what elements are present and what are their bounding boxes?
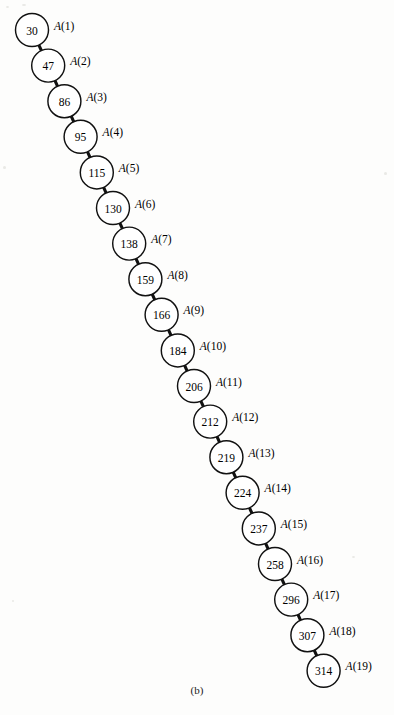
list-node[interactable]: 166A(9) [145, 298, 204, 331]
node-value: 258 [266, 559, 284, 571]
node-value: 95 [75, 131, 87, 143]
node-label: A(19) [345, 660, 372, 673]
node-value: 166 [153, 309, 171, 321]
node-value: 130 [104, 203, 122, 215]
node-value: 314 [315, 665, 333, 677]
node-value: 296 [283, 594, 301, 606]
figure-container: 30A(1)47A(2)86A(3)95A(4)115A(5)130A(6)13… [0, 0, 394, 715]
scan-speck [12, 600, 14, 602]
node-label: A(7) [150, 233, 172, 246]
node-value: 212 [202, 416, 220, 428]
node-value: 86 [59, 96, 71, 108]
node-value: 47 [42, 60, 54, 72]
node-label: A(11) [215, 376, 242, 389]
node-label: A(4) [102, 126, 124, 139]
node-label: A(18) [328, 625, 355, 638]
figure-caption: (b) [0, 684, 394, 696]
node-value: 115 [88, 167, 105, 179]
node-label: A(16) [296, 554, 323, 567]
list-node[interactable]: 224A(14) [226, 476, 291, 509]
list-node[interactable]: 130A(6) [97, 192, 156, 225]
node-value: 224 [234, 487, 252, 499]
scan-speck [384, 172, 387, 175]
node-label: A(10) [199, 340, 226, 353]
scan-speck [6, 6, 9, 8]
node-value: 237 [250, 523, 268, 535]
node-value: 30 [26, 25, 38, 37]
node-label: A(14) [264, 482, 291, 495]
node-label: A(17) [312, 589, 339, 602]
list-node[interactable]: 47A(2) [32, 49, 91, 82]
list-node[interactable]: 86A(3) [48, 85, 107, 118]
scan-speck [22, 4, 26, 6]
node-value: 219 [218, 452, 236, 464]
node-value: 307 [299, 630, 317, 642]
list-node[interactable]: 296A(17) [275, 583, 340, 616]
scan-speck [3, 166, 6, 169]
node-value: 138 [121, 238, 139, 250]
node-label: A(9) [183, 304, 205, 317]
list-node[interactable]: 206A(11) [178, 370, 242, 403]
list-node[interactable]: 184A(10) [161, 334, 226, 367]
list-node[interactable]: 307A(18) [291, 619, 356, 652]
list-node[interactable]: 115A(5) [80, 156, 139, 189]
linked-list-chain: 30A(1)47A(2)86A(3)95A(4)115A(5)130A(6)13… [0, 0, 394, 715]
nodes-group: 30A(1)47A(2)86A(3)95A(4)115A(5)130A(6)13… [16, 14, 372, 688]
node-label: A(13) [247, 447, 274, 460]
node-label: A(15) [280, 518, 307, 531]
list-node[interactable]: 237A(15) [242, 512, 307, 545]
node-value: 159 [137, 274, 155, 286]
node-label: A(12) [231, 411, 258, 424]
list-node[interactable]: 159A(8) [129, 263, 188, 296]
node-value: 184 [169, 345, 187, 357]
list-node[interactable]: 219A(13) [210, 441, 275, 474]
list-node[interactable]: 30A(1) [16, 14, 75, 47]
list-node[interactable]: 258A(16) [259, 548, 324, 581]
node-value: 206 [185, 381, 203, 393]
node-label: A(1) [53, 20, 75, 33]
list-node[interactable]: 95A(4) [64, 120, 123, 153]
node-label: A(5) [118, 162, 140, 175]
node-label: A(6) [134, 198, 156, 211]
list-node[interactable]: 212A(12) [194, 405, 259, 438]
scan-speck [352, 556, 355, 558]
list-node[interactable]: 138A(7) [113, 227, 172, 260]
node-label: A(8) [166, 269, 188, 282]
list-node[interactable]: 314A(19) [307, 654, 372, 687]
node-label: A(2) [69, 55, 91, 68]
node-label: A(3) [85, 91, 107, 104]
